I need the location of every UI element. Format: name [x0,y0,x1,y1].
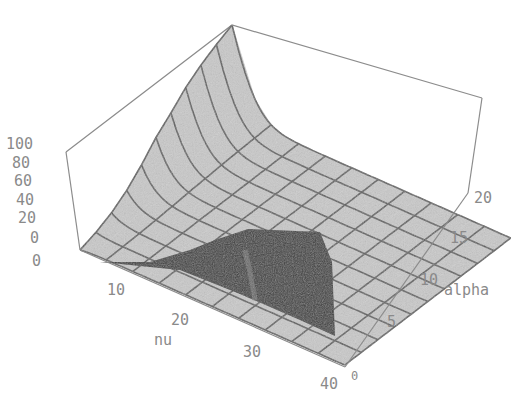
z-tick-60: 60 [14,172,32,190]
nu-tick-40: 40 [320,375,338,393]
z-tick-20: 20 [18,209,36,227]
alpha-tick-15: 15 [450,229,468,247]
surface-mesh [80,25,511,365]
nu-tick-20: 20 [171,311,189,329]
z-axis: 100 80 60 40 20 0 0 [6,135,41,270]
nu-tick-30: 30 [243,343,261,361]
nu-axis-label: nu [154,331,172,349]
alpha-axis-label: alpha [444,281,489,299]
alpha-tick-10: 10 [420,271,438,289]
z-tick-80: 80 [12,154,30,172]
z-tick-0: 0 [30,229,39,247]
z-tick-100: 100 [6,135,33,153]
nu-tick-0: 0 [32,252,41,270]
alpha-tick-0: 0 [351,369,358,383]
alpha-tick-20: 20 [474,189,492,207]
surface-plot: 100 80 60 40 20 0 0 10 20 nu 30 40 0 5 1… [0,0,525,408]
nu-tick-10: 10 [107,281,125,299]
alpha-tick-5: 5 [387,313,396,331]
z-tick-40: 40 [16,191,34,209]
